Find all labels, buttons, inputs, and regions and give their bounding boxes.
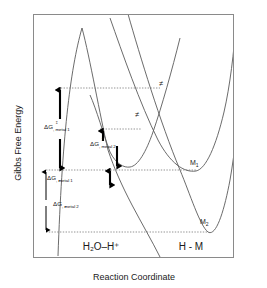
figure-background <box>0 0 267 288</box>
category-label-right: H - M <box>179 241 203 252</box>
x-axis-title: Reaction Coordinate <box>93 272 175 282</box>
y-axis-title: Gibbs Free Energy <box>13 105 23 181</box>
transition-state-2-symbol: ≠ <box>135 110 139 119</box>
category-label-left: H₂O–H⁺ <box>83 241 120 252</box>
energy-diagram-figure: Gibbs Free Energy <box>0 0 267 288</box>
transition-state-1-symbol: ≠ <box>159 79 163 88</box>
diagram-canvas: Gibbs Free Energy <box>0 0 267 288</box>
